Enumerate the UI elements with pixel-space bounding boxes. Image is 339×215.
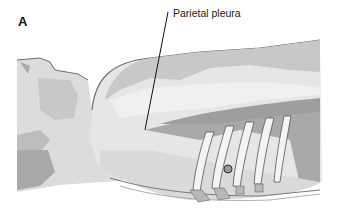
pleura-marker	[224, 165, 232, 173]
thorax-illustration	[0, 0, 339, 215]
